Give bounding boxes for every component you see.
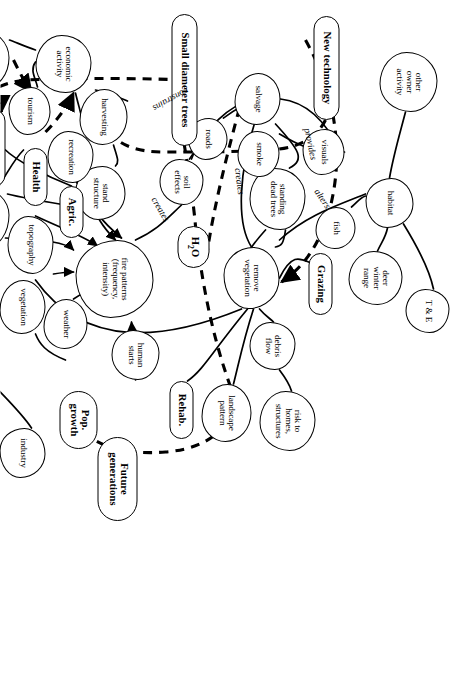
node-human-starts[interactable]: humanstarts	[111, 330, 159, 380]
edge-past-industry	[0, 346, 31, 428]
node-agric[interactable]: Agric.	[59, 186, 83, 238]
edge-other-owner-habitat	[389, 112, 405, 178]
node-harvesting[interactable]: harvesting	[79, 89, 127, 145]
diagram-canvas: otherowneractivity habitat T & E deerwin…	[0, 0, 465, 678]
node-smoke[interactable]: smoke	[237, 131, 279, 177]
node-debris-flow[interactable]: debrisflow	[249, 322, 295, 370]
node-habitat[interactable]: habitat	[365, 178, 413, 228]
node-vegetation[interactable]: vegetation	[0, 280, 45, 334]
node-recreation[interactable]: recreation	[47, 131, 93, 183]
node-standing-dead-trees[interactable]: standingdead trees	[249, 168, 305, 230]
node-fire-patterns[interactable]: fire patterns(frequency,intensity)	[75, 240, 153, 318]
node-new-technology[interactable]: New technology	[313, 16, 339, 120]
node-deer-winter-range[interactable]: deerwinterrange	[348, 251, 402, 305]
node-rehab[interactable]: Rehab.	[169, 381, 193, 439]
node-economic-activity[interactable]: economicactivity	[35, 35, 91, 93]
node-soil-effects[interactable]: soileffects	[159, 159, 203, 205]
edge-community-education	[0, 96, 1, 112]
node-h2o[interactable]: H2O	[177, 226, 209, 268]
node-small-diameter-trees[interactable]: Small diameter trees	[171, 14, 197, 146]
node-education[interactable]: Education	[0, 109, 5, 187]
node-weather[interactable]: weather	[43, 299, 87, 349]
node-landscape-pattern[interactable]: landscapepattern	[201, 384, 251, 442]
node-pop-growth[interactable]: Pop.growth	[59, 391, 97, 449]
node-industry[interactable]: industry	[0, 428, 45, 478]
node-salvage[interactable]: salvage	[234, 73, 280, 125]
node-fish[interactable]: fish	[315, 207, 355, 249]
node-health[interactable]: Health	[23, 148, 47, 206]
node-risk-to-homes-structures[interactable]: risk tohomes,structures	[259, 391, 315, 451]
node-future-generations[interactable]: Futuregenerations	[97, 437, 137, 521]
concept-map: otherowneractivity habitat T & E deerwin…	[0, 0, 465, 678]
node-grazing[interactable]: Grazing	[308, 253, 332, 315]
node-t-and-e[interactable]: T & E	[405, 289, 449, 333]
node-topography[interactable]: topography	[7, 216, 53, 274]
node-remove-vegetation[interactable]: removevegetation	[223, 247, 279, 309]
node-tourism[interactable]: tourism	[8, 87, 50, 135]
node-other-owner-activity[interactable]: otherowneractivity	[379, 52, 437, 112]
